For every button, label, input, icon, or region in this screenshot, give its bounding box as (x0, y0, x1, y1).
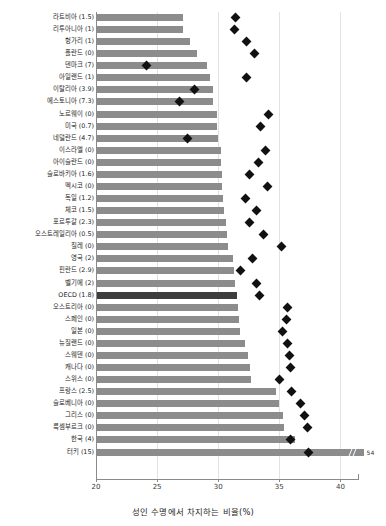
bar (96, 280, 235, 287)
row-label: 라트비아 (1.5) (0, 12, 94, 23)
bar (96, 135, 218, 142)
x-tick (218, 479, 219, 482)
row-label: 에스토니아 (7.3) (0, 96, 94, 107)
x-tick-label: 20 (84, 483, 108, 491)
row-label: 그리스 (0) (0, 410, 94, 421)
chart-row: 스페인 (0) (0, 314, 386, 325)
diamond-marker (251, 206, 261, 216)
diamond-marker (283, 338, 293, 348)
row-label: 이스라엘 (0) (0, 145, 94, 156)
bar (96, 388, 276, 395)
x-axis-title: 성인 수명에서 차지하는 비율(%) (0, 505, 386, 517)
bar (96, 328, 240, 335)
row-label: 독일 (1.2) (0, 193, 94, 204)
row-label: 영국 (2) (0, 253, 94, 264)
chart-row: 네덜란드 (4.7) (0, 133, 386, 144)
row-label: 핀란드 (2.9) (0, 265, 94, 276)
bar (96, 98, 213, 105)
bar (96, 14, 183, 21)
row-label: 멕시코 (0) (0, 181, 94, 192)
diamond-marker (285, 363, 295, 373)
bar (96, 304, 238, 311)
row-label: 한국 (4) (0, 434, 94, 445)
chart-row: 미국 (0.7) (0, 121, 386, 132)
chart-row: 캐나다 (0) (0, 362, 386, 373)
bar (96, 147, 221, 154)
bar (96, 62, 207, 69)
bar (96, 364, 250, 371)
bar (96, 424, 284, 431)
bar (96, 267, 234, 274)
diamond-marker (247, 254, 257, 264)
diamond-marker (278, 326, 288, 336)
bar (96, 171, 222, 178)
bar (96, 243, 228, 250)
bar (96, 50, 197, 57)
diamond-marker (283, 302, 293, 312)
chart-row: 오스트리아 (0) (0, 302, 386, 313)
row-label: 슬로베니아 (0) (0, 398, 94, 409)
bar (96, 255, 233, 262)
x-tick-label: 35 (267, 483, 291, 491)
row-label: 체코 (1.5) (0, 205, 94, 216)
chart-row: 아일랜드 (1) (0, 72, 386, 83)
bar (96, 159, 221, 166)
chart-row: 칠레 (0) (0, 241, 386, 252)
chart-row: 오스트레일리아 (0.5) (0, 229, 386, 240)
row-label: 오스트레일리아 (0.5) (0, 229, 94, 240)
bar (96, 183, 222, 190)
chart-row: 슬로바키아 (1.6) (0, 169, 386, 180)
chart-row: 아이슬란드 (0) (0, 157, 386, 168)
row-label: 이탈리아 (3.9) (0, 84, 94, 95)
chart-row: 덴마크 (7) (0, 60, 386, 71)
chart-row: 에스토니아 (7.3) (0, 96, 386, 107)
chart-row: 이스라엘 (0) (0, 145, 386, 156)
row-label: 스위스 (0) (0, 374, 94, 385)
bar (96, 449, 364, 456)
x-tick-label: 40 (328, 483, 352, 491)
chart-row: 리투아니아 (1) (0, 24, 386, 35)
chart-row: 프랑스 (2.5) (0, 386, 386, 397)
diamond-marker (245, 218, 255, 228)
bar (96, 292, 237, 299)
x-tick (279, 479, 280, 482)
row-label: 노르웨이 (0) (0, 109, 94, 120)
x-tick (96, 479, 97, 482)
x-tick (340, 479, 341, 482)
chart-row: 벨기에 (2) (0, 278, 386, 289)
x-tick (157, 479, 158, 482)
diamond-marker (263, 109, 273, 119)
diamond-marker (295, 399, 305, 409)
diamond-marker (262, 182, 272, 192)
bar (96, 412, 283, 419)
row-label: 캐나다 (0) (0, 362, 94, 373)
diamond-marker (235, 266, 245, 276)
x-tick-label: 25 (145, 483, 169, 491)
row-label: 미국 (0.7) (0, 121, 94, 132)
row-label: 일본 (0) (0, 326, 94, 337)
bar (96, 352, 248, 359)
x-tick-label: 30 (206, 483, 230, 491)
chart-row: 일본 (0) (0, 326, 386, 337)
chart-row: 그리스 (0) (0, 410, 386, 421)
chart-row: 노르웨이 (0) (0, 109, 386, 120)
row-label: 프랑스 (2.5) (0, 386, 94, 397)
chart-row: 스웨덴 (0) (0, 350, 386, 361)
chart-row: 체코 (1.5) (0, 205, 386, 216)
diamond-marker (274, 375, 284, 385)
chart-row: 슬로베니아 (0) (0, 398, 386, 409)
diamond-marker (284, 351, 294, 361)
x-axis-line (96, 479, 358, 480)
chart-row: 뉴질랜드 (0) (0, 338, 386, 349)
chart-row: 멕시코 (0) (0, 181, 386, 192)
row-label: 스웨덴 (0) (0, 350, 94, 361)
row-label: 슬로바키아 (1.6) (0, 169, 94, 180)
chart-row: 스위스 (0) (0, 374, 386, 385)
diamond-marker (240, 194, 250, 204)
row-label: 네덜란드 (4.7) (0, 133, 94, 144)
bar (96, 38, 190, 45)
diamond-marker (277, 242, 287, 252)
diamond-marker (254, 157, 264, 167)
row-label: 덴마크 (7) (0, 60, 94, 71)
bar (96, 231, 227, 238)
